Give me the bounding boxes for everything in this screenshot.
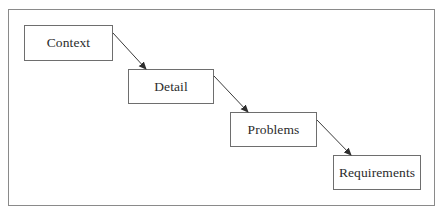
node-problems: Problems <box>230 112 317 147</box>
node-detail: Detail <box>128 69 214 104</box>
node-problems-label: Problems <box>248 122 300 138</box>
node-context-label: Context <box>47 35 90 51</box>
node-detail-label: Detail <box>154 79 188 95</box>
node-requirements: Requirements <box>333 155 421 190</box>
node-context: Context <box>24 25 113 61</box>
node-requirements-label: Requirements <box>339 165 415 181</box>
